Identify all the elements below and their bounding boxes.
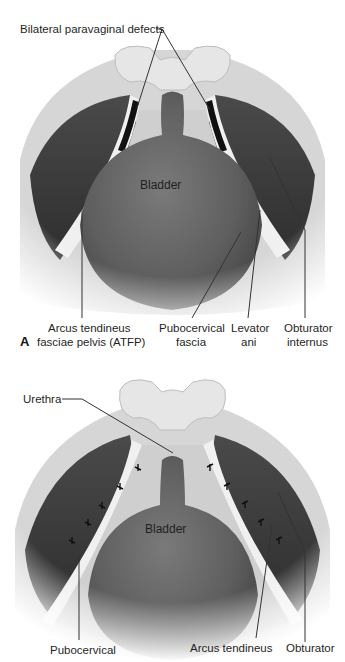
label-levator-line2: ani — [241, 335, 256, 349]
panel-letter-a: A — [20, 334, 29, 349]
label-obturator: Obturator — [286, 641, 335, 655]
label-urethra: Urethra — [23, 392, 61, 406]
panel-b: Urethra Bladder Pubocervical Arcus tendi… — [0, 360, 345, 662]
label-levator-line1: Levator — [231, 321, 269, 335]
label-pubocervical-line1: Pubocervical — [159, 321, 225, 335]
label-bladder: Bladder — [145, 522, 186, 536]
label-pubocervical-line2: fascia — [176, 335, 206, 349]
panel-a: Bilateral paravaginal defects Bladder Ar… — [0, 0, 345, 360]
label-atfp-line1: Arcus tendineus — [48, 321, 130, 335]
label-obturator-line2: internus — [287, 335, 328, 349]
label-atfp-line2: fasciae pelvis (ATFP) — [37, 335, 145, 349]
label-bilateral-paravaginal-defects: Bilateral paravaginal defects — [20, 22, 164, 36]
label-bladder: Bladder — [140, 178, 181, 192]
label-obturator-line1: Obturator — [284, 321, 333, 335]
label-arcus-tendineus: Arcus tendineus — [190, 641, 272, 655]
label-pubocervical: Pubocervical — [50, 643, 116, 657]
